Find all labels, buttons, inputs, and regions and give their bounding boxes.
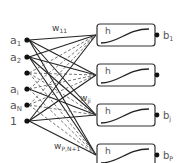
weight-label: wP,N+1 [54,141,80,152]
weight-edge [29,35,96,40]
input-label: a2 [10,51,21,65]
input-dot [24,54,29,59]
output-dot [155,73,160,78]
neural-network-diagram: a1a2aiaN1 hb1hhbjhbP w11wjiwP,N+1 [0,0,182,163]
neuron-box: h [97,64,159,86]
output-dot [155,113,160,118]
output-label: b1 [163,30,174,43]
weight-edge [29,35,96,89]
input-node: a2 [10,51,30,65]
input-dot [24,70,29,75]
input-label: aN [10,99,22,113]
output-dot [155,33,160,38]
input-dot [24,118,29,123]
activation-label: h [105,66,111,76]
weight-edge [29,35,96,121]
input-dot [24,102,29,107]
activation-label: h [105,146,111,156]
neuron-boxes: hb1hhbjhbP [97,24,174,163]
input-node: ai [10,83,30,97]
output-label: bP [163,150,173,163]
neuron-box: hb1 [97,24,174,46]
input-node: 1 [10,115,30,128]
input-label: a1 [10,34,21,48]
input-nodes: a1a2aiaN1 [10,34,30,128]
weight-edge [29,115,96,121]
input-label: 1 [10,115,17,128]
neuron-box: hbP [97,144,173,163]
output-label: bj [163,110,171,123]
neuron-box: hbj [97,104,171,126]
input-label: ai [10,83,19,97]
output-dot [155,153,160,158]
weight-label: w11 [52,23,67,34]
input-node [24,70,29,75]
input-dot [24,37,29,42]
input-node: aN [10,99,30,113]
weight-edge [29,73,96,75]
activation-label: h [105,26,111,36]
input-node: a1 [10,34,30,48]
input-dot [24,86,29,91]
activation-label: h [105,106,111,116]
